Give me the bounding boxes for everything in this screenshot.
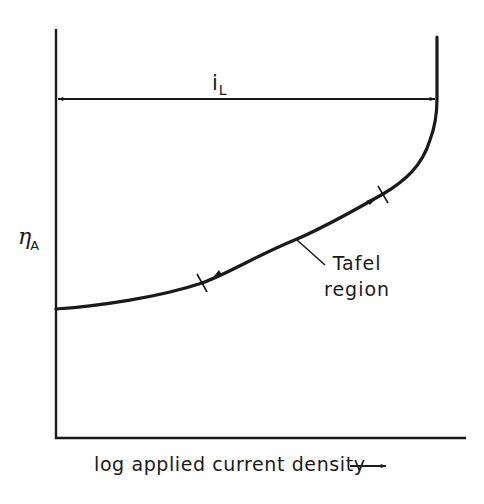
axes [55,29,466,439]
x-axis-label: log applied current density [94,455,366,474]
limiting-current-symbol: i [212,71,218,95]
x-axis-label-text: log applied current density [94,453,366,475]
tafel-label-line1: Tafel [324,250,390,276]
y-axis-label: ηA [18,226,39,248]
tafel-region-annotation: Tafel region [324,250,390,302]
tafel-leader-line [297,240,325,265]
tafel-label-line2: region [324,276,390,302]
overpotential-subscript: A [30,238,39,253]
polarization-diagram [0,0,484,504]
curve-arrow-lower-icon [210,270,222,281]
limiting-current-label: iL [212,73,227,94]
limiting-current-subscript: L [219,82,227,98]
